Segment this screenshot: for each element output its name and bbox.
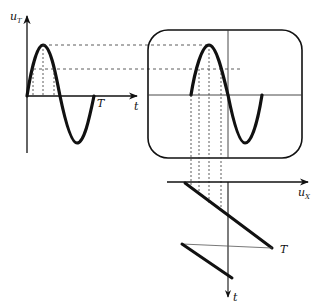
sawtooth-flyback: [182, 244, 272, 248]
ux-axis-label: uX: [298, 186, 311, 201]
oscilloscope-screen: [148, 30, 302, 158]
sweep-voltage-graph: uX T t: [167, 182, 311, 304]
screen-frame: [148, 30, 302, 158]
t-axis-label-left: t: [134, 100, 139, 113]
period-label-sweep: T: [280, 243, 289, 256]
oscilloscope-diagram: uT T t uX T t: [0, 0, 320, 305]
input-signal-graph: uT T t: [10, 10, 139, 153]
screen-sine-trace: [191, 45, 262, 143]
ut-axis-label: uT: [10, 10, 23, 25]
input-sine-wave: [27, 45, 94, 143]
period-label-left: T: [97, 97, 106, 110]
sawtooth-ramp-2: [182, 244, 232, 278]
t-axis-label-down: t: [233, 291, 238, 304]
